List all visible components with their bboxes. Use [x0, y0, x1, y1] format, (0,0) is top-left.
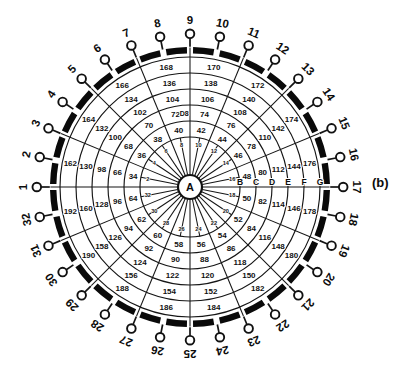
cell-number: 10: [195, 142, 201, 148]
terminal-label: 24: [215, 344, 230, 358]
terminal-stem: [217, 325, 219, 333]
rim-dash: [289, 92, 302, 108]
terminal-13: 13: [289, 60, 317, 88]
terminal-28: 28: [88, 304, 112, 335]
boundary-letter-G: G: [317, 177, 324, 187]
rim-dash: [269, 75, 285, 88]
terminal-circle: [244, 41, 253, 50]
rim-dash: [193, 322, 214, 324]
terminal-stem: [268, 63, 273, 70]
boundary-letter-B: B: [237, 177, 243, 187]
cell-number: 190: [82, 251, 96, 260]
terminal-circle: [216, 333, 225, 342]
rim-dash: [318, 137, 324, 157]
cell-number: 150: [242, 271, 256, 280]
terminal-2: 2: [20, 150, 53, 161]
cell-number: 172: [251, 81, 265, 90]
terminal-label: 18: [347, 212, 361, 227]
hub-label: A: [186, 181, 194, 193]
terminal-label: 30: [43, 271, 60, 288]
terminal-label: 2: [20, 150, 33, 159]
terminal-22: 22: [268, 304, 292, 335]
cell-number: 100: [108, 133, 122, 142]
rim-dash: [56, 137, 62, 157]
cell-number: 16: [229, 176, 235, 182]
cell-number: 98: [97, 165, 106, 174]
rim-dash: [325, 190, 327, 211]
terminal-27: 27: [118, 317, 136, 350]
cell-number: 24: [195, 226, 202, 232]
cell-number: 20: [223, 208, 229, 214]
rim-dash: [220, 315, 240, 321]
cell-number: 164: [82, 115, 96, 124]
terminal-circle: [313, 98, 322, 107]
terminal-stem: [307, 265, 314, 270]
cell-number: 120: [201, 271, 215, 280]
cell-number: 158: [95, 242, 109, 251]
cell-number: 50: [242, 194, 251, 203]
terminal-circle: [271, 310, 280, 319]
cell-number: 180: [285, 251, 299, 260]
terminal-circle: [127, 41, 136, 50]
cell-number: 130: [79, 162, 93, 171]
cell-number: 168: [160, 63, 174, 72]
terminal-stem: [320, 241, 328, 244]
terminal-label: 31: [27, 242, 43, 259]
terminal-11: 11: [244, 25, 263, 58]
terminal-stem: [133, 317, 136, 325]
terminal-circle: [156, 32, 165, 41]
cell-number: 102: [133, 108, 147, 117]
cell-number: 140: [242, 95, 256, 104]
terminal-30: 30: [43, 265, 74, 289]
cell-number: 176: [303, 159, 317, 168]
terminal-19: 19: [320, 241, 353, 259]
terminal-label: 3: [29, 118, 43, 129]
cell-number: 60: [153, 231, 162, 240]
rim-dash: [193, 50, 214, 52]
boundary-letter-D: D: [269, 177, 275, 187]
terminal-label: 5: [65, 62, 78, 75]
terminal-stem: [85, 82, 91, 88]
terminal-circle: [271, 55, 280, 64]
terminal-label: 16: [347, 147, 361, 162]
terminal-label: 10: [215, 16, 230, 30]
terminal-label: 12: [274, 40, 291, 57]
terminal-1: 1: [17, 183, 50, 192]
terminal-label: 26: [150, 344, 165, 358]
terminal-label: 6: [91, 41, 103, 55]
cell-number: 154: [163, 287, 177, 296]
terminal-circle: [339, 183, 348, 192]
rim-dash: [78, 266, 91, 282]
terminal-21: 21: [289, 286, 317, 314]
terminal-circle: [294, 291, 303, 300]
terminal-circle: [77, 291, 86, 300]
terminal-stem: [244, 317, 247, 325]
terminal-label: 27: [118, 333, 134, 349]
terminal-29: 29: [63, 286, 91, 314]
terminal-circle: [294, 74, 303, 83]
cell-number: 182: [251, 284, 265, 293]
terminal-5: 5: [65, 62, 90, 88]
terminal-25: 25: [183, 327, 196, 360]
cell-number: 188: [116, 284, 130, 293]
terminal-18: 18: [328, 212, 361, 227]
cell-number: 70: [144, 121, 153, 130]
terminal-circle: [313, 268, 322, 277]
cell-number: 142: [271, 124, 285, 133]
terminal-circle: [216, 32, 225, 41]
cell-number: 174: [285, 115, 299, 124]
sector-line: [225, 222, 288, 285]
rim-dash: [166, 50, 187, 52]
terminal-32: 32: [19, 212, 52, 227]
terminal-label: 9: [187, 14, 193, 26]
terminal-label: 19: [336, 243, 352, 259]
cell-number: 52: [234, 215, 243, 224]
terminal-label: 8: [153, 17, 162, 30]
cell-number: 170: [207, 63, 221, 72]
cell-number: 38: [153, 135, 162, 144]
cell-number: 64: [129, 194, 138, 203]
terminal-circle: [156, 333, 165, 342]
cell-number: 110: [258, 133, 271, 142]
rim-dash: [78, 92, 91, 108]
terminal-9: 9: [186, 14, 195, 47]
